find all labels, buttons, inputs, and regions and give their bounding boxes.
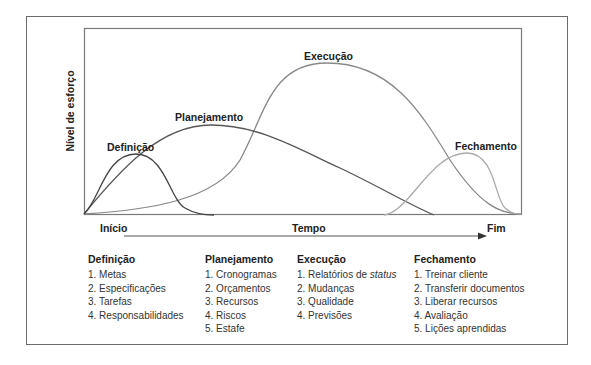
phase-item: 1. Cronogramas: [205, 268, 277, 282]
phase-title: Execução: [297, 253, 397, 265]
curve-execucao: [84, 63, 521, 214]
curve-definicao: [84, 154, 214, 215]
phase-column-fechamento: Fechamento 1. Treinar cliente 2. Transfe…: [414, 253, 525, 336]
phase-item: 5. Lições aprendidas: [414, 322, 525, 336]
phase-item: 2. Mudanças: [297, 282, 397, 296]
phase-item: 1. Treinar cliente: [414, 268, 525, 282]
x-axis-start-label: Início: [100, 222, 127, 234]
phase-item: 3. Recursos: [205, 295, 277, 309]
curve-label-execucao: Execução: [304, 50, 353, 62]
arrow-head-icon: [478, 233, 487, 240]
phase-column-planejamento: Planejamento 1. Cronogramas 2. Orçamento…: [205, 253, 277, 336]
phase-item: 2. Especificações: [88, 282, 184, 296]
phase-item: 4. Riscos: [205, 309, 277, 323]
phase-column-execucao: Execução 1. Relatórios de status 2. Muda…: [297, 253, 397, 322]
x-axis-label: Tempo: [292, 222, 326, 234]
phase-item: 3. Liberar recursos: [414, 295, 525, 309]
curve-label-definicao: Definição: [107, 141, 154, 153]
phase-item: 1. Relatórios de status: [297, 268, 397, 282]
chart-box: [85, 29, 522, 215]
phase-item: 4. Avaliação: [414, 309, 525, 323]
phase-item: 1. Metas: [88, 268, 184, 282]
curve-fechamento: [384, 153, 521, 215]
phase-item: 4. Previsões: [297, 309, 397, 323]
phase-item: 3. Tarefas: [88, 295, 184, 309]
phase-item: 2. Orçamentos: [205, 282, 277, 296]
phase-item-italic: status: [370, 269, 397, 280]
phase-item: 2. Transferir documentos: [414, 282, 525, 296]
curve-planejamento: [84, 125, 434, 215]
phase-title: Definição: [88, 253, 184, 265]
phase-column-definicao: Definição 1. Metas 2. Especificações 3. …: [88, 253, 184, 322]
curve-label-planejamento: Planejamento: [175, 111, 243, 123]
phase-item: 4. Responsabilidades: [88, 309, 184, 323]
curve-label-fechamento: Fechamento: [455, 140, 517, 152]
y-axis-label: Nível de esforço: [64, 70, 76, 151]
phase-item: 3. Qualidade: [297, 295, 397, 309]
x-axis-end-label: Fim: [487, 222, 506, 234]
phase-title: Fechamento: [414, 253, 525, 265]
phase-item: 5. Estafe: [205, 322, 277, 336]
phase-item-text: 1. Relatórios de: [297, 269, 370, 280]
phase-title: Planejamento: [205, 253, 277, 265]
